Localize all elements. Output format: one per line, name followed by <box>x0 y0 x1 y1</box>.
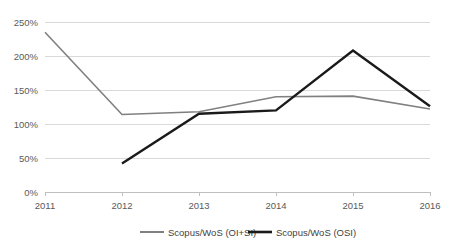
y-axis-tick-label: 100% <box>14 119 39 130</box>
x-axis-tick-label: 2016 <box>419 200 440 211</box>
y-axis-tick-label: 150% <box>14 85 39 96</box>
x-axis-tick-label: 2014 <box>265 200 286 211</box>
chart-legend: Scopus/WoS (OI+SI)Scopus/WoS (OSI) <box>140 227 356 238</box>
y-axis-tick-label: 200% <box>14 51 39 62</box>
chart-canvas: 0%50%100%150%200%250% 201120122013201420… <box>0 0 452 245</box>
x-axis-labels: 201120122013201420152016 <box>35 200 441 211</box>
y-axis-labels: 0%50%100%150%200%250% <box>14 17 39 198</box>
legend-label: Scopus/WoS (OI+SI) <box>168 227 256 238</box>
series-line-1 <box>45 32 430 114</box>
x-axis-tick-label: 2013 <box>188 200 209 211</box>
x-tick-marks <box>45 192 430 196</box>
series-line-2 <box>122 51 430 164</box>
y-axis-tick-label: 50% <box>19 153 39 164</box>
gridlines <box>45 22 430 192</box>
y-axis-tick-label: 250% <box>14 17 39 28</box>
y-axis-tick-label: 0% <box>24 187 38 198</box>
legend-label: Scopus/WoS (OSI) <box>276 227 356 238</box>
line-chart: 0%50%100%150%200%250% 201120122013201420… <box>0 0 452 245</box>
data-series <box>45 32 430 163</box>
x-axis-tick-label: 2011 <box>35 200 55 211</box>
x-axis-tick-label: 2015 <box>342 200 363 211</box>
x-axis-tick-label: 2012 <box>111 200 132 211</box>
